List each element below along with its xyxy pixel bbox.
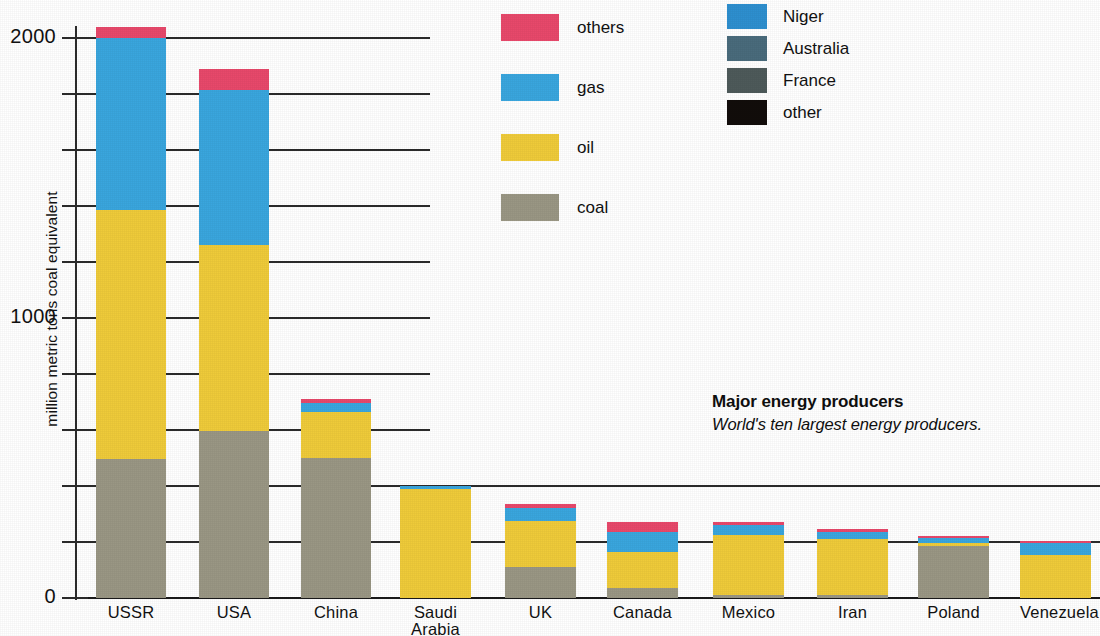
legend-item-other[interactable]: other xyxy=(727,100,822,125)
legend-item-gas[interactable]: gas xyxy=(501,74,604,101)
y-tick-label-0: 0 xyxy=(0,585,56,608)
legend-item-australia[interactable]: Australia xyxy=(727,36,849,61)
bar-segment-others xyxy=(96,27,166,38)
bar-segment-oil xyxy=(96,210,166,459)
x-axis-label-poland: Poland xyxy=(918,604,989,621)
legend-label: Australia xyxy=(783,39,849,59)
legend-item-others[interactable]: others xyxy=(501,14,624,41)
x-axis-label-line: UK xyxy=(505,604,576,621)
bar-segment-oil xyxy=(301,412,371,458)
x-axis-label-line: China xyxy=(301,604,371,621)
bar-segment-coal xyxy=(713,595,784,598)
x-axis-label-usa: USA xyxy=(199,604,269,621)
legend-label: France xyxy=(783,71,836,91)
bar-usa xyxy=(199,69,269,598)
bar-ussr xyxy=(96,27,166,598)
x-axis-label-iran: Iran xyxy=(817,604,888,621)
color-swatch-icon xyxy=(727,100,767,125)
x-axis-label-line: Arabia xyxy=(400,621,471,636)
bar-saudi-arabia xyxy=(400,486,471,598)
bar-segment-gas xyxy=(1020,543,1091,554)
bar-segment-oil xyxy=(1020,555,1091,598)
bar-segment-coal xyxy=(199,431,269,598)
x-axis-label-mexico: Mexico xyxy=(713,604,784,621)
caption-subtitle: World's ten largest energy producers. xyxy=(712,415,1092,434)
x-axis-label-venezuela: Venezuela xyxy=(1020,604,1091,621)
bar-china xyxy=(301,399,371,598)
legend-item-coal[interactable]: coal xyxy=(501,194,608,221)
x-axis-label-canada: Canada xyxy=(607,604,678,621)
bar-segment-others xyxy=(607,522,678,532)
color-swatch-icon xyxy=(501,134,559,161)
bar-segment-gas xyxy=(96,38,166,210)
legend-label: oil xyxy=(577,138,594,158)
x-axis-label-ussr: USSR xyxy=(96,604,166,621)
bar-segment-oil xyxy=(607,552,678,588)
bar-segment-gas xyxy=(607,532,678,552)
bar-segment-coal xyxy=(96,459,166,598)
bar-iran xyxy=(817,529,888,598)
x-axis-label-line: Iran xyxy=(817,604,888,621)
bar-segment-oil xyxy=(199,245,269,431)
y-axis-title: million metric tons coal equivalent xyxy=(43,49,61,569)
color-swatch-icon xyxy=(501,194,559,221)
legend-label: others xyxy=(577,18,624,38)
legend-label: Niger xyxy=(783,7,824,27)
bar-segment-gas xyxy=(301,403,371,411)
x-axis-label-line: USSR xyxy=(96,604,166,621)
bar-segment-gas xyxy=(505,508,576,521)
color-swatch-icon xyxy=(727,68,767,93)
legend-label: gas xyxy=(577,78,604,98)
y-tick-label-2000: 2000 xyxy=(0,25,56,48)
bar-segment-others xyxy=(199,69,269,90)
bar-poland xyxy=(918,536,989,598)
legend-label: coal xyxy=(577,198,608,218)
bar-segment-oil xyxy=(505,521,576,567)
bar-mexico xyxy=(713,522,784,598)
legend-item-oil[interactable]: oil xyxy=(501,134,594,161)
color-swatch-icon xyxy=(727,36,767,61)
bar-segment-coal xyxy=(301,458,371,598)
bar-segment-coal xyxy=(607,588,678,598)
color-swatch-icon xyxy=(727,4,767,29)
legend-item-france[interactable]: France xyxy=(727,68,836,93)
bar-segment-gas xyxy=(817,532,888,539)
bar-venezuela xyxy=(1020,541,1091,598)
bar-segment-coal xyxy=(817,595,888,598)
color-swatch-icon xyxy=(501,74,559,101)
bar-segment-oil xyxy=(400,489,471,598)
color-swatch-icon xyxy=(501,14,559,41)
bar-segment-oil xyxy=(713,535,784,595)
x-axis-label-line: Saudi xyxy=(400,604,471,621)
x-axis-label-line: USA xyxy=(199,604,269,621)
x-axis-label-china: China xyxy=(301,604,371,621)
bar-uk xyxy=(505,504,576,598)
legend-item-niger[interactable]: Niger xyxy=(727,4,824,29)
bar-segment-coal xyxy=(505,567,576,598)
y-axis-line xyxy=(75,26,77,600)
bar-segment-oil xyxy=(817,539,888,595)
bar-segment-gas xyxy=(199,90,269,245)
x-axis-label-line: Poland xyxy=(918,604,989,621)
x-axis-label-line: Canada xyxy=(607,604,678,621)
bar-canada xyxy=(607,522,678,598)
x-axis-label-uk: UK xyxy=(505,604,576,621)
x-axis-label-line: Venezuela xyxy=(1020,604,1091,621)
x-axis-label-saudi-arabia: SaudiArabia xyxy=(400,604,471,636)
bar-segment-coal xyxy=(918,546,989,598)
caption: Major energy producers World's ten large… xyxy=(712,392,1092,434)
bar-segment-gas xyxy=(713,525,784,535)
x-axis-label-line: Mexico xyxy=(713,604,784,621)
caption-title: Major energy producers xyxy=(712,392,1092,412)
legend-label: other xyxy=(783,103,822,123)
